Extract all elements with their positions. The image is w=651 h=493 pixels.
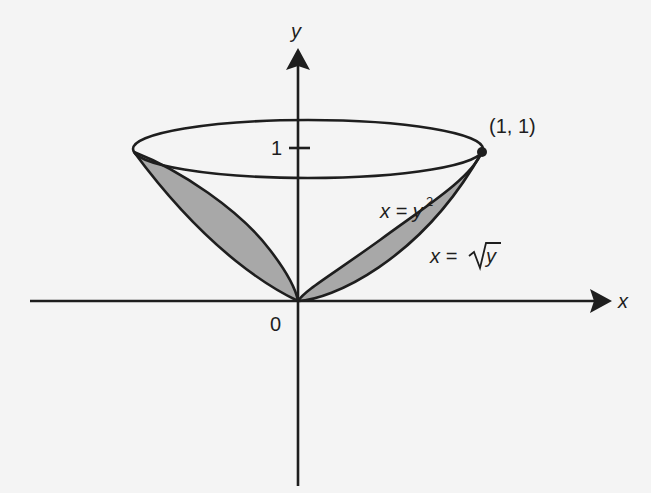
y-tick-label-1: 1 <box>271 137 282 159</box>
parabola-label-exponent: 2 <box>426 194 433 209</box>
sqrt-label-lhs: x = <box>429 245 457 267</box>
x-axis-label: x <box>617 290 629 312</box>
y-axis-label: y <box>289 20 302 42</box>
radical-sign-icon <box>469 243 501 268</box>
curves <box>134 152 482 301</box>
origin-label: 0 <box>270 313 281 335</box>
sqrt-label: x = y <box>429 243 501 268</box>
point-label: (1, 1) <box>489 115 536 137</box>
parabola-label-text: x = y <box>379 200 424 222</box>
solid-of-revolution-diagram: y x 0 1 (1, 1) x = y 2 x = y <box>0 0 651 493</box>
shaded-regions <box>134 152 482 301</box>
point-1-1-marker <box>477 147 487 157</box>
sqrt-label-radicand: y <box>484 245 497 267</box>
